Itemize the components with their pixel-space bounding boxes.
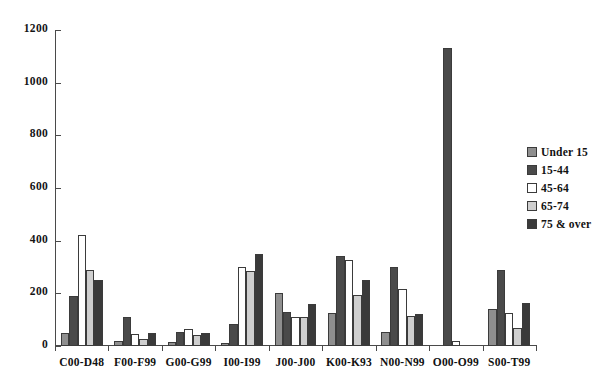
bar: [300, 317, 308, 346]
bar: [114, 341, 122, 346]
bar: [184, 329, 192, 346]
bar: [513, 328, 521, 346]
x-axis-tick: [55, 345, 56, 351]
legend-swatch-icon: [527, 183, 537, 193]
x-axis-tick: [483, 345, 484, 351]
legend-item: 65-74: [527, 197, 612, 214]
bar: [86, 270, 94, 346]
bar: [497, 270, 505, 346]
bar: [362, 280, 370, 346]
y-axis-tick: [55, 83, 61, 84]
y-axis-tick-label: 0: [0, 338, 48, 350]
bar: [283, 312, 291, 346]
bar: [505, 313, 513, 346]
y-axis-tick: [55, 241, 61, 242]
bar: [123, 317, 131, 346]
legend-item-label: 75 & over: [541, 218, 591, 230]
x-axis-tick: [162, 345, 163, 351]
y-axis-tick-label: 400: [0, 233, 48, 245]
x-axis-tick: [429, 345, 430, 351]
legend: Under 1515-4445-6465-7475 & over: [527, 143, 612, 233]
legend-item-label: 45-64: [541, 182, 569, 194]
bar: [353, 295, 361, 346]
x-axis-tick: [376, 345, 377, 351]
y-axis-tick: [55, 30, 61, 31]
bar: [201, 333, 209, 346]
legend-item-label: 65-74: [541, 200, 569, 212]
bar: [61, 333, 69, 346]
y-axis-tick: [55, 188, 61, 189]
bar: [345, 260, 353, 346]
legend-item-label: 15-44: [541, 164, 569, 176]
bar: [291, 317, 299, 346]
bar: [452, 341, 460, 346]
bar: [148, 333, 156, 346]
bar: [255, 254, 263, 346]
bar: [193, 335, 201, 346]
y-axis-tick-label: 1200: [0, 22, 48, 34]
y-axis-tick-label: 1000: [0, 75, 48, 87]
bar: [275, 293, 283, 346]
bar: [488, 309, 496, 346]
y-axis-tick: [55, 293, 61, 294]
legend-item: 15-44: [527, 161, 612, 178]
legend-item: Under 15: [527, 143, 612, 160]
bar: [407, 316, 415, 346]
legend-swatch-icon: [527, 219, 537, 229]
bar: [381, 332, 389, 346]
legend-swatch-icon: [527, 165, 537, 175]
bar: [78, 235, 86, 346]
x-axis-tick: [322, 345, 323, 351]
bar-chart: 020040060080010001200 C00-D48F00-F99G00-…: [0, 0, 612, 390]
bar: [168, 342, 176, 346]
bar: [443, 48, 451, 346]
bar: [139, 339, 147, 346]
bar: [131, 334, 139, 346]
bar: [176, 332, 184, 346]
legend-item: 75 & over: [527, 215, 612, 232]
bar: [69, 296, 77, 346]
legend-swatch-icon: [527, 201, 537, 211]
bar: [415, 314, 423, 346]
bar: [390, 267, 398, 346]
legend-swatch-icon: [527, 147, 537, 157]
x-axis-tick: [269, 345, 270, 351]
x-axis-tick: [215, 345, 216, 351]
bar: [522, 303, 530, 346]
bar: [328, 313, 336, 346]
x-axis-tick: [108, 345, 109, 351]
bar: [94, 280, 102, 346]
y-axis-tick: [55, 135, 61, 136]
y-axis-tick-label: 200: [0, 285, 48, 297]
bar: [308, 304, 316, 346]
y-axis-tick-label: 800: [0, 127, 48, 139]
bar: [336, 256, 344, 346]
x-axis-group-label: S00-T99: [475, 356, 544, 368]
legend-item: 45-64: [527, 179, 612, 196]
y-axis-tick-label: 600: [0, 180, 48, 192]
bar: [229, 324, 237, 346]
bar: [238, 267, 246, 346]
legend-item-label: Under 15: [541, 146, 588, 158]
bar: [398, 289, 406, 346]
x-axis-tick: [536, 345, 537, 351]
bar: [221, 343, 229, 346]
bar: [246, 271, 254, 346]
